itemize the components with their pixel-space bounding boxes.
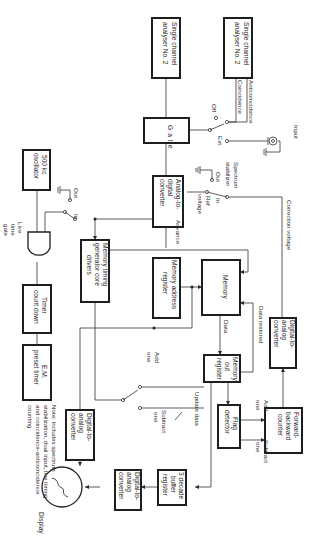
live-in-label: In bbox=[73, 214, 80, 220]
stabilizer-label-1: Spectrum bbox=[233, 162, 240, 188]
em-timer-label-1: E.M. bbox=[41, 365, 48, 379]
input-label: Input bbox=[293, 125, 300, 139]
adc-label-1: Analog-to- bbox=[174, 179, 182, 209]
dac-left-label-1: Digital-to- bbox=[85, 413, 93, 441]
memory-block bbox=[202, 260, 240, 315]
correction-voltage-label: Correction voltage bbox=[286, 200, 293, 251]
sca-left-label-2: analyser No. 2 bbox=[161, 22, 169, 65]
note-line-1: Note: Includes spectrum bbox=[51, 405, 58, 472]
subtract-one-switch-label-1: Subtract bbox=[161, 410, 168, 433]
wire-coincidence bbox=[227, 78, 236, 122]
multichannel-analyzer-block-diagram: Single channel analyser No. 2 Single cha… bbox=[0, 0, 316, 560]
update-data-label: Update data bbox=[194, 392, 201, 426]
timing-label-2: generator core bbox=[93, 243, 101, 286]
note-line-2: stabilization, dual input, live timing bbox=[43, 405, 50, 499]
buffer-label-1: 3 decade bbox=[178, 472, 185, 499]
dac-left-label-3: converter bbox=[70, 413, 77, 441]
ref-voltage-label-1: Ref bbox=[205, 196, 212, 206]
sca-left-label-1: Single channel bbox=[170, 22, 178, 66]
timing-label-3: drivers bbox=[86, 255, 93, 275]
memory-label: Memory bbox=[221, 275, 229, 300]
source-switch-lever bbox=[210, 124, 224, 130]
oscillator-label-1: 500 kc bbox=[41, 155, 48, 175]
input-connector-icon bbox=[264, 137, 280, 156]
mem-out-label-1: Memory bbox=[231, 357, 239, 382]
stabilizer-label-2: stabilizer bbox=[225, 162, 232, 186]
timer-label-2: count down bbox=[33, 290, 40, 324]
dac-left-label-2: analog bbox=[77, 413, 85, 433]
dac-corr-label-3: converter bbox=[273, 320, 280, 348]
live-out-label: Out bbox=[73, 188, 80, 198]
flag-label-1: Flag bbox=[231, 417, 239, 430]
live-time-label-3: gate bbox=[3, 224, 10, 237]
data-restored-label: Data restored bbox=[258, 306, 265, 344]
update-data-pointer bbox=[175, 412, 182, 420]
dac-corr-label-2: analog bbox=[280, 320, 288, 340]
adc-label-3: converter bbox=[159, 179, 166, 207]
wire-data-restored bbox=[240, 303, 253, 372]
add-one-switch-label-2: one bbox=[146, 352, 153, 363]
live-time-label-1: Live bbox=[17, 222, 24, 234]
counter-label-2: backward bbox=[285, 412, 292, 441]
subtract-one-switch-label-2: one bbox=[153, 412, 160, 423]
dac-right-label-3: converter bbox=[118, 472, 125, 500]
live-time-label-2: time bbox=[10, 224, 17, 236]
counter-label-1: Forward- bbox=[293, 412, 300, 438]
mem-out-label-3: register bbox=[215, 358, 223, 381]
gate-block bbox=[144, 118, 189, 143]
note-line-3: and coincidence-anticoincidence bbox=[35, 405, 42, 495]
ref-voltage-label-2: voltage bbox=[197, 194, 204, 215]
live-time-and-gate bbox=[28, 232, 50, 255]
display-label: Display bbox=[37, 512, 45, 534]
stabilizer-out-label: Out bbox=[215, 172, 222, 182]
address-label-2: register bbox=[161, 272, 169, 295]
sca-top-label-2: analyser No. 2 bbox=[233, 22, 241, 65]
timer-label-1: Timer bbox=[41, 297, 48, 314]
counter-label-3: counter bbox=[277, 414, 284, 437]
advance-label: Advance bbox=[175, 220, 182, 245]
mem-out-label-2: out bbox=[224, 362, 231, 371]
add-one-counter-label-2: one bbox=[255, 400, 262, 411]
add-one-counter-label-1: Add bbox=[263, 400, 270, 412]
address-label-1: Memory address bbox=[170, 260, 178, 310]
oscillator-label-2: oscillator bbox=[33, 153, 40, 180]
coincidence-label: Coincidence bbox=[237, 80, 244, 115]
dac-right-label-2: analog bbox=[125, 472, 133, 492]
sca-top-label-1: Single channel bbox=[242, 22, 250, 66]
wire-stabilizer-ground bbox=[200, 170, 212, 180]
subtract-one-counter-label-1: Subtract bbox=[263, 440, 270, 463]
timing-label-1: Memory timing bbox=[101, 243, 109, 287]
subtract-one-counter-label-2: one bbox=[255, 442, 262, 453]
note-line-4: counting bbox=[27, 405, 34, 429]
buffer-label-2: buffer bbox=[170, 476, 177, 494]
wire-timing-switch bbox=[95, 302, 123, 400]
gate-label: Gate bbox=[167, 125, 174, 151]
ext-label: Ext. bbox=[217, 136, 224, 147]
data-label: Data bbox=[223, 320, 230, 334]
buffer-label-3: register bbox=[161, 474, 169, 497]
wire-out-gate bbox=[45, 212, 65, 232]
anticoincidence-label: Anticoincidence bbox=[248, 80, 255, 124]
flag-label-2: detector bbox=[224, 410, 231, 435]
off-label: Off bbox=[211, 104, 218, 112]
dac-right-label-1: Digital-to- bbox=[133, 472, 141, 500]
adc-label-2: digital bbox=[166, 179, 174, 197]
dac-corr-label-1: Digital-to- bbox=[288, 320, 296, 348]
em-timer-label-2: preset timer bbox=[32, 350, 40, 386]
add-one-switch-label-1: Add bbox=[154, 352, 161, 364]
stabilizer-in-label: In bbox=[215, 198, 222, 204]
